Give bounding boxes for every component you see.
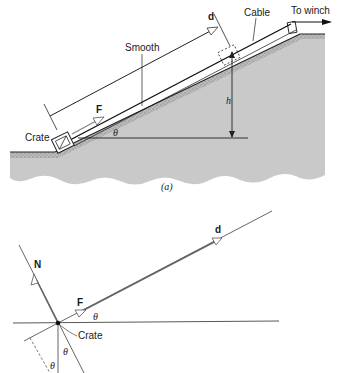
force-displacement-vector	[80, 239, 220, 312]
displacement-label: d	[208, 11, 214, 22]
angle-theta-top-label: θ	[93, 311, 98, 322]
horizontal-axis-line	[13, 321, 279, 323]
figure-b: N F d θ θ θ Crate	[13, 211, 279, 373]
crate-label-b: Crate	[78, 330, 103, 341]
work-on-incline-diagram: Smooth Cable To winch Crate F d θ h (a)	[0, 0, 339, 373]
angle-theta-label: θ	[113, 127, 118, 138]
normal-vector	[36, 279, 58, 323]
to-winch-label: To winch	[291, 5, 330, 16]
figure-a-caption: (a)	[161, 181, 173, 193]
displacement-label-b: d	[215, 224, 221, 235]
force-label-b: F	[77, 297, 83, 308]
dashed-reference-line	[30, 338, 50, 373]
displacement-arrowhead-icon	[207, 27, 218, 35]
height-label: h	[226, 95, 231, 106]
normal-label: N	[34, 259, 41, 270]
force-label: F	[96, 104, 102, 115]
to-winch-arrowhead-icon	[322, 19, 332, 25]
crate-final-position-dashed	[218, 45, 240, 65]
smooth-label: Smooth	[125, 42, 159, 53]
angle-theta-low-label: θ	[50, 360, 55, 371]
crate-label: Crate	[25, 132, 50, 143]
displacement-start-tick	[44, 104, 57, 130]
cable-label: Cable	[244, 7, 271, 18]
ground-fill	[10, 34, 325, 185]
crate-point-icon	[56, 321, 61, 326]
incline-perpendicular-line	[24, 323, 58, 341]
displacement-end-tick	[214, 14, 230, 46]
angle-theta-mid-label: θ	[63, 346, 68, 357]
cable-leader-line	[253, 18, 256, 41]
force-arrowhead-icon-b	[75, 310, 86, 317]
figure-a: Smooth Cable To winch Crate F d θ h (a)	[10, 5, 332, 193]
